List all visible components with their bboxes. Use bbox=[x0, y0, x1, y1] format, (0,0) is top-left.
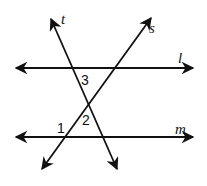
line-s bbox=[42, 18, 151, 169]
label-s: s bbox=[149, 20, 155, 36]
label-m: m bbox=[175, 121, 186, 137]
label-l: l bbox=[178, 50, 182, 66]
angle-1-label: 1 bbox=[57, 120, 65, 136]
line-t bbox=[51, 19, 117, 169]
geometry-diagram: t s l m 3 2 1 bbox=[0, 0, 207, 186]
angle-3-label: 3 bbox=[81, 72, 89, 88]
angle-2-label: 2 bbox=[82, 112, 90, 128]
label-t: t bbox=[61, 11, 66, 27]
